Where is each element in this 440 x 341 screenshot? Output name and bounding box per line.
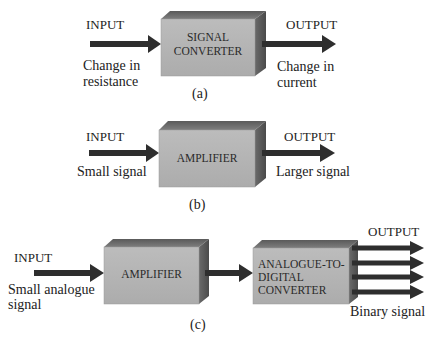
output-arrow-b — [262, 144, 335, 162]
amplifier-label-c: AMPLIFIER — [104, 269, 199, 281]
input-description-a-line2: resistance — [83, 75, 138, 89]
connecting-arrow-c — [205, 264, 253, 282]
output-arrow-a — [262, 35, 336, 53]
input-description-b: Small signal — [77, 165, 147, 179]
caption-a: (a) — [192, 87, 208, 101]
output-label-b: OUTPUT — [284, 130, 335, 143]
input-description-a-line1: Change in — [83, 59, 140, 73]
binary-output-arrow-4 — [352, 285, 424, 299]
caption-b: (b) — [189, 198, 205, 212]
input-label-b: INPUT — [86, 130, 124, 143]
adc-label-line1: ANALOGUE-TO- — [258, 258, 345, 271]
output-label-c: OUTPUT — [368, 225, 419, 238]
input-arrow-c — [34, 264, 104, 282]
signal-converter-block — [161, 11, 266, 76]
binary-output-arrows — [352, 241, 424, 299]
output-label-a: OUTPUT — [286, 18, 337, 31]
binary-output-arrow-3 — [352, 270, 424, 284]
output-description-b: Larger signal — [276, 165, 350, 179]
adc-label-line3: CONVERTER — [258, 284, 326, 297]
input-label-c: INPUT — [14, 251, 52, 264]
adc-label-line2: DIGITAL — [258, 271, 304, 284]
input-description-c-line2: signal — [8, 298, 41, 312]
output-description-a-line1: Change in — [277, 60, 334, 74]
amplifier-label-b: AMPLIFIER — [159, 153, 255, 165]
input-arrow-b — [89, 144, 159, 162]
binary-output-arrow-1 — [352, 241, 424, 255]
input-label-a: INPUT — [86, 18, 124, 31]
signal-converter-label-line1: SIGNAL — [161, 32, 255, 44]
input-description-c-line1: Small analogue — [8, 283, 95, 297]
binary-output-arrow-2 — [352, 256, 424, 270]
input-arrow-a — [90, 35, 161, 53]
output-description-a-line2: current — [277, 76, 317, 90]
block-diagrams-figure: INPUT Change in resistance SIGNAL CONVER… — [0, 0, 440, 341]
signal-converter-label-line2: CONVERTER — [161, 46, 255, 58]
caption-c: (c) — [190, 318, 206, 332]
output-description-c: Binary signal — [350, 305, 425, 319]
